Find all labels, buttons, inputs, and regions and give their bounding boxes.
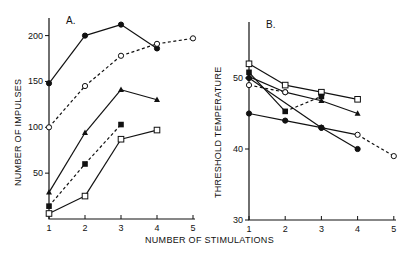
- data-point-marker: [391, 154, 396, 159]
- series-segment: [321, 101, 357, 114]
- y-tick-label: 50: [233, 73, 243, 83]
- x-tick-label: 3: [319, 224, 324, 234]
- series-segment: [85, 125, 121, 164]
- panel-b-threshold: 304050 12345 B. THRESHOLD TEMPERATURE: [213, 19, 396, 234]
- data-point-marker: [282, 109, 288, 115]
- series-segment: [285, 85, 321, 92]
- data-point-marker: [283, 118, 288, 123]
- y-tick-label: 40: [233, 144, 243, 154]
- y-tick-label: 150: [28, 76, 43, 86]
- data-point-marker: [246, 111, 251, 116]
- x-tick-label: 1: [246, 224, 251, 234]
- data-point-marker: [154, 127, 160, 133]
- series-segment: [249, 114, 285, 121]
- data-point-marker: [282, 82, 288, 88]
- series-segment: [49, 86, 85, 127]
- series-filled-triangle: [46, 87, 160, 195]
- data-point-marker: [118, 122, 124, 128]
- data-point-marker: [46, 203, 52, 209]
- data-point-marker: [246, 75, 251, 80]
- panel-b-x-ticks: 12345: [246, 216, 396, 234]
- y-tick-label: 200: [28, 31, 43, 41]
- data-point-marker: [82, 193, 88, 199]
- data-point-marker: [118, 136, 124, 142]
- y-tick-label: 100: [28, 122, 43, 132]
- series-open-square: [46, 127, 160, 216]
- data-point-marker: [46, 211, 52, 217]
- data-point-marker: [118, 53, 123, 58]
- x-tick-label: 2: [283, 224, 288, 234]
- data-point-marker: [82, 33, 87, 38]
- y-tick-label: 30: [233, 215, 243, 225]
- series-segment: [85, 139, 121, 196]
- data-point-marker: [246, 61, 252, 67]
- series-filled-circle: [46, 22, 159, 86]
- panel-a-series: [46, 22, 196, 216]
- panel-b-series: [246, 61, 396, 159]
- data-point-marker: [190, 36, 195, 41]
- x-tick-label: 4: [355, 224, 360, 234]
- data-point-marker: [355, 146, 360, 151]
- data-point-marker: [118, 22, 123, 27]
- data-point-marker: [319, 125, 324, 130]
- x-axis-label: NUMBER OF STIMULATIONS: [145, 235, 274, 245]
- panel-a-axes: [49, 18, 195, 219]
- series-segment: [157, 38, 193, 44]
- x-tick-label: 3: [118, 223, 123, 233]
- series-segment: [121, 90, 157, 100]
- series-segment: [121, 130, 157, 139]
- data-point-marker: [46, 125, 51, 130]
- data-point-marker: [46, 81, 51, 86]
- x-tick-label: 2: [82, 223, 87, 233]
- data-point-marker: [246, 70, 252, 76]
- panel-a-y-axis-label: NUMBER OF IMPULSES: [13, 79, 23, 186]
- data-point-marker: [118, 87, 124, 92]
- series-segment: [85, 56, 121, 86]
- x-tick-label: 1: [46, 223, 51, 233]
- panel-b-label: B.: [266, 19, 275, 30]
- x-tick-label: 5: [391, 224, 396, 234]
- data-point-marker: [319, 94, 325, 100]
- data-point-marker: [355, 132, 360, 137]
- series-segment: [85, 25, 121, 36]
- series-segment: [285, 92, 321, 101]
- panel-b-axes: [249, 22, 396, 220]
- figure: 50100150200 12345 A. NUMBER OF IMPULSES …: [0, 0, 411, 254]
- series-segment: [49, 196, 85, 213]
- panel-a-y-ticks: 50100150200: [28, 31, 49, 179]
- data-point-marker: [154, 41, 159, 46]
- series-segment: [49, 133, 85, 193]
- x-tick-label: 4: [154, 223, 159, 233]
- data-point-marker: [283, 90, 288, 95]
- panel-b-y-axis-label: THRESHOLD TEMPERATURE: [213, 67, 223, 198]
- data-point-marker: [355, 97, 361, 103]
- panel-b-y-ticks: 304050: [233, 73, 249, 225]
- series-segment: [121, 25, 157, 49]
- series-filled-triangle: [246, 73, 361, 115]
- series-segment: [321, 92, 357, 99]
- series-segment: [121, 44, 157, 56]
- y-tick-label: 50: [33, 168, 43, 178]
- chart-canvas: 50100150200 12345 A. NUMBER OF IMPULSES …: [0, 0, 411, 254]
- data-point-marker: [82, 161, 88, 167]
- panel-a-x-ticks: 12345: [46, 215, 195, 233]
- panel-a-impulses: 50100150200 12345 A. NUMBER OF IMPULSES: [13, 15, 196, 233]
- series-segment: [358, 135, 394, 156]
- data-point-marker: [246, 83, 251, 88]
- series-segment: [49, 36, 85, 84]
- series-segment: [285, 96, 321, 111]
- series-filled-circle-steep: [246, 75, 360, 151]
- series-segment: [85, 90, 121, 133]
- series-segment: [49, 164, 85, 206]
- x-tick-label: 5: [190, 223, 195, 233]
- series-open-circle: [46, 36, 195, 130]
- data-point-marker: [82, 83, 87, 88]
- series-filled-circle-lower: [246, 111, 396, 159]
- panel-a-label: A.: [66, 15, 75, 26]
- series-segment: [249, 72, 285, 111]
